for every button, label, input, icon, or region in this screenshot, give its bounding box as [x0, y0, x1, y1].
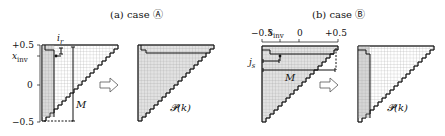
panel-b-title: (b) case Ⓑ [312, 6, 365, 21]
y-tick-top: +0.5 [12, 41, 34, 50]
diagram-canvas [0, 0, 445, 136]
range-label-m: M [76, 100, 86, 110]
x-tick-zero: 0 [297, 29, 303, 38]
result-label-pk: 𝓟(k) [387, 103, 408, 113]
index-label-js: js [249, 58, 255, 70]
axis-label-xinv: xinv [12, 52, 28, 64]
index-label-ir: ir [57, 34, 63, 46]
axis-label-xinv: xinv [268, 28, 284, 40]
range-label-m: M [285, 73, 295, 83]
result-label-pk: 𝓟(k) [170, 103, 191, 113]
arrow-icon [100, 78, 118, 92]
arrow-icon [320, 78, 338, 92]
y-tick-zero: 0 [27, 81, 33, 90]
panel-a-title: (a) case Ⓐ [110, 6, 163, 21]
y-tick-bottom: −0.5 [12, 118, 34, 127]
panel-b-staircase-triangle [262, 39, 338, 122]
x-tick-right: +0.5 [325, 29, 347, 38]
